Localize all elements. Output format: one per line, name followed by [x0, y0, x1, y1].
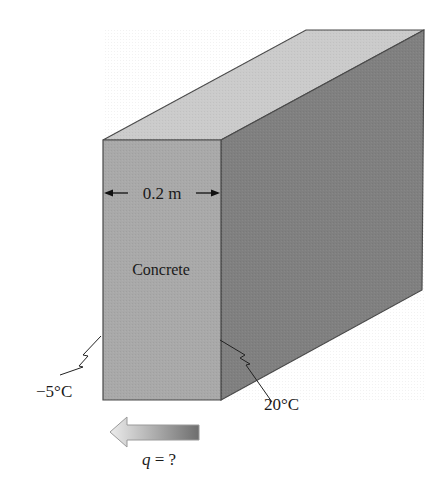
material-label: Concrete	[132, 261, 190, 278]
right-temperature-label: 20°C	[264, 395, 299, 414]
thickness-label: 0.2 m	[143, 184, 182, 203]
concrete-wall-diagram: 0.2 m Concrete −5°C 20°C q = ?	[0, 0, 446, 493]
left-temp-leader	[60, 336, 101, 375]
heat-flow-label: q = ?	[142, 450, 176, 469]
heat-flow-arrow-icon	[110, 417, 199, 447]
left-temperature-label: −5°C	[36, 382, 72, 401]
